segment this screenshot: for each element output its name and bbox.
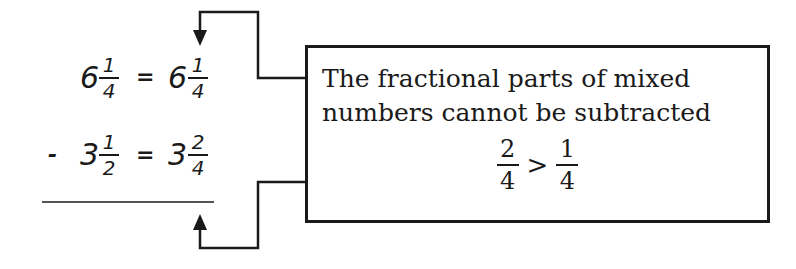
minus-sign: - <box>48 142 57 167</box>
row1-right-fraction: 14 <box>188 55 208 101</box>
row1-left-fraction: 14 <box>99 55 119 101</box>
bottom-connector-line <box>200 182 305 248</box>
explanation-callout: The fractional parts of mixed numbers ca… <box>305 45 770 223</box>
row2-left-fraction: 12 <box>99 132 119 178</box>
row2-right-fraction: 24 <box>188 132 208 178</box>
fraction-comparison: 24 > 14 <box>497 136 579 194</box>
callout-line-2: numbers cannot be subtracted <box>308 96 767 130</box>
row2-right-whole: 3 <box>168 140 187 170</box>
callout-line-1: The fractional parts of mixed <box>308 62 767 96</box>
comparison-left-fraction: 24 <box>497 136 519 194</box>
row2-equals: = <box>136 142 154 167</box>
row1-equals: = <box>136 64 154 89</box>
top-connector-line <box>200 12 305 78</box>
row1-right-whole: 6 <box>168 63 187 93</box>
row2-left-whole: 3 <box>80 140 99 170</box>
row1-left-whole: 6 <box>80 63 99 93</box>
arrow-up-icon <box>193 214 207 230</box>
greater-than-symbol: > <box>527 148 549 182</box>
arrow-down-icon <box>193 30 207 46</box>
comparison-right-fraction: 14 <box>556 136 578 194</box>
